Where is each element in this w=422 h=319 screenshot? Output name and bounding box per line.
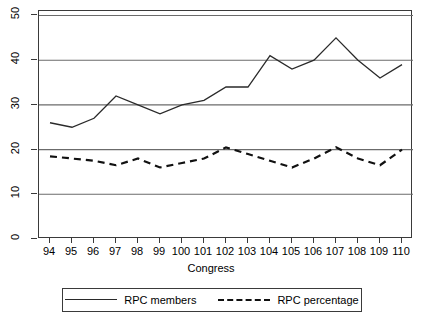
x-axis-label: 102	[216, 245, 234, 257]
series-line-2	[50, 147, 402, 167]
x-axis-tick	[335, 238, 336, 243]
y-axis-tick	[31, 59, 37, 60]
chart-page: 01020304050 9495969798991001011021031041…	[0, 0, 422, 319]
legend-swatch-solid-icon	[65, 296, 117, 304]
x-axis-tick	[137, 238, 138, 243]
legend-item-rpc-percentage: RPC percentage	[218, 294, 358, 306]
x-axis-label: 110	[392, 245, 410, 257]
x-axis-label: 94	[43, 245, 55, 257]
x-axis-tick	[247, 238, 248, 243]
legend-swatch-dashed-icon	[218, 296, 270, 304]
x-axis-label: 101	[194, 245, 212, 257]
x-axis-tick	[291, 238, 292, 243]
x-axis-label: 99	[153, 245, 165, 257]
legend-label-rpc-members: RPC members	[124, 294, 196, 306]
y-axis-tick	[31, 14, 37, 15]
x-axis-label: 100	[172, 245, 190, 257]
plot-area	[38, 10, 412, 238]
y-axis-label: 40	[9, 45, 21, 71]
x-axis-tick	[269, 238, 270, 243]
series-lines	[50, 38, 402, 168]
x-axis-label: 105	[282, 245, 300, 257]
x-axis-tick	[401, 238, 402, 243]
x-axis-tick	[71, 238, 72, 243]
y-axis-tick	[31, 104, 37, 105]
x-axis-label: 98	[131, 245, 143, 257]
x-axis-tick	[203, 238, 204, 243]
y-axis-tick	[31, 149, 37, 150]
x-axis-title: Congress	[0, 262, 422, 274]
y-axis-label: 10	[9, 179, 21, 205]
series-line-1	[50, 38, 402, 127]
x-axis-tick	[357, 238, 358, 243]
x-axis-label: 107	[326, 245, 344, 257]
x-axis-label: 108	[348, 245, 366, 257]
x-axis-tick	[159, 238, 160, 243]
x-axis-label: 109	[370, 245, 388, 257]
x-axis-tick	[93, 238, 94, 243]
legend-item-rpc-members: RPC members	[65, 294, 196, 306]
x-axis-label: 96	[87, 245, 99, 257]
y-axis-tick	[31, 193, 37, 194]
legend-label-rpc-percentage: RPC percentage	[277, 294, 358, 306]
x-axis-tick	[313, 238, 314, 243]
x-axis-label: 104	[260, 245, 278, 257]
x-axis-label: 97	[109, 245, 121, 257]
x-axis-label: 106	[304, 245, 322, 257]
x-axis-tick	[379, 238, 380, 243]
y-axis: 01020304050	[0, 0, 38, 250]
x-axis-tick	[225, 238, 226, 243]
y-axis-label: 30	[9, 90, 21, 116]
gridlines	[39, 15, 413, 194]
x-axis-label: 103	[238, 245, 256, 257]
x-axis-label: 95	[65, 245, 77, 257]
x-axis-tick	[49, 238, 50, 243]
y-axis-label: 20	[9, 135, 21, 161]
x-axis-tick	[115, 238, 116, 243]
chart-canvas	[39, 11, 413, 239]
x-axis-tick	[181, 238, 182, 243]
chart-legend: RPC members RPC percentage	[62, 288, 362, 312]
y-axis-label: 50	[9, 0, 21, 26]
